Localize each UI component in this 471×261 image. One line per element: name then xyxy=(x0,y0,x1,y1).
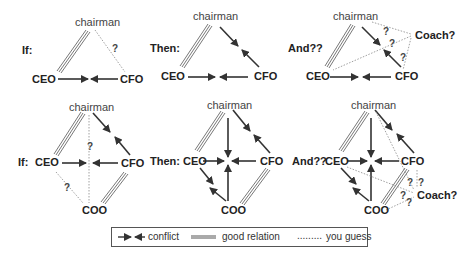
conflict-arrow-ceo-down xyxy=(200,168,213,184)
conflict-arrow-coo-up-left xyxy=(210,188,226,201)
panel-1-edges xyxy=(57,30,125,79)
panel-3-prefix: And?? xyxy=(288,43,323,54)
panel-3-question-1: ? xyxy=(383,27,389,37)
panel-6-prefix: And?? xyxy=(292,156,327,167)
legend-conflict-label: conflict xyxy=(148,232,179,242)
panel-4-node-ceo: CEO xyxy=(35,157,59,168)
panel-6-question-1: ? xyxy=(407,178,413,188)
panel-6-node-ceo: CEO xyxy=(325,156,349,167)
panel-5-node-ceo: CEO xyxy=(183,156,207,167)
panel-2-edges xyxy=(180,24,259,77)
conflict-arrow-chairman xyxy=(93,113,110,132)
panel-1-node-chairman: chairman xyxy=(75,17,120,28)
good-relation-cfo-coo xyxy=(101,172,128,204)
panel-6-question-4: ? xyxy=(406,198,412,208)
panel-6-node-cfo: CFO xyxy=(401,156,424,167)
conflict-arrow-chairman-cfo xyxy=(375,110,392,130)
legend-you-guess-dots: ......... xyxy=(297,231,322,241)
panel-3-question-2: ? xyxy=(389,39,395,49)
panel-2-node-cfo: CFO xyxy=(254,71,277,82)
panel-5-node-cfo: CFO xyxy=(260,156,283,167)
panel-5-node-chairman: chairman xyxy=(207,100,252,111)
panel-4-question-1: ? xyxy=(87,142,93,152)
panel-3-node-ceo: CEO xyxy=(306,71,330,82)
panel-6-node-coo: COO xyxy=(364,205,389,216)
dotted-chairman-cfo xyxy=(95,30,125,72)
good-relation-chairman-ceo xyxy=(57,30,90,73)
conflict-arrow-chairman xyxy=(220,27,238,46)
conflict-arrow-cfo xyxy=(384,50,401,67)
conflict-arrow-chairman-cfo xyxy=(233,110,250,131)
good-relation-cfo-coo xyxy=(240,168,270,205)
conflict-arrow-cfo-up xyxy=(397,134,414,153)
conflict-arrow-coo-up-left xyxy=(353,188,369,201)
conflict-arrow-cfo-up xyxy=(254,135,270,153)
good-relation-chairman-ceo xyxy=(180,24,212,68)
panel-1-prefix: If: xyxy=(22,45,32,56)
good-relation-chairman-ceo xyxy=(339,111,369,152)
panel-3-node-cfo: CFO xyxy=(395,71,418,82)
panel-6-node-chairman: chairman xyxy=(351,100,396,111)
good-relation-chairman-ceo xyxy=(195,111,225,152)
conflict-arrow-cfo xyxy=(115,137,130,155)
diagram-canvas xyxy=(0,0,471,261)
panel-6-node-coach: Coach? xyxy=(417,190,457,201)
panel-2-node-ceo: CEO xyxy=(161,71,185,82)
panel-4-node-coo: COO xyxy=(82,205,107,216)
panel-3-edges xyxy=(325,22,411,77)
conflict-arrow-chairman xyxy=(362,27,380,45)
panel-3-node-chairman: chairman xyxy=(333,11,378,22)
panel-3-node-coach: Coach? xyxy=(415,30,455,41)
panel-4-node-chairman: chairman xyxy=(69,102,114,113)
panel-3-question-3: ? xyxy=(400,53,406,63)
panel-1-node-cfo: CFO xyxy=(120,74,143,85)
panel-4-node-cfo: CFO xyxy=(121,158,144,169)
panel-6-question-2: ? xyxy=(418,178,424,188)
legend-you-guess-label: you guess xyxy=(326,232,372,242)
panel-1-question: ? xyxy=(112,44,118,54)
panel-4-question-2: ? xyxy=(64,183,70,193)
legend: conflict good relation ......... you gue… xyxy=(111,227,368,247)
panel-2-prefix: Then: xyxy=(150,43,180,54)
panel-5-node-coo: COO xyxy=(221,205,246,216)
panel-5-prefix: Then: xyxy=(150,156,180,167)
conflict-arrow-cfo xyxy=(242,50,259,67)
panel-1-node-ceo: CEO xyxy=(32,74,56,85)
panel-2-node-chairman: chairman xyxy=(193,11,238,22)
panel-4-prefix: If: xyxy=(18,157,28,168)
legend-good-relation-label: good relation xyxy=(222,232,280,242)
conflict-arrow-ceo-down xyxy=(341,168,356,184)
good-relation-chairman-ceo xyxy=(325,24,355,68)
good-relation-chairman-ceo xyxy=(54,112,85,156)
